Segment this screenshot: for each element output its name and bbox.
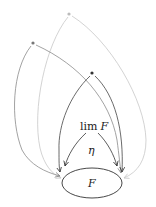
cone-arrow-mid-left [15,46,60,176]
eta-label: η [88,144,95,157]
cone-arrow-light-right [72,16,146,178]
limit-arrow-right [98,133,117,166]
cone-arrow-mid-right [36,45,121,173]
cone-arrow-light-left [38,17,68,178]
apex-dot-light [67,12,70,15]
limit-arrow-left [65,133,86,166]
limit-cone-diagram: limF η F [0,0,156,207]
diagram-label: F [87,177,96,190]
apex-dot-mid [31,41,34,44]
apex-dot-dark [90,71,93,74]
cone-arrow-dark-right [95,76,122,172]
limit-label: limF [80,120,108,133]
